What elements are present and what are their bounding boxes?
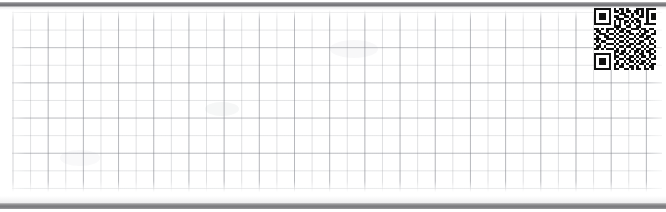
qr-code[interactable] [594,8,656,70]
sheet-right-margin [662,10,666,197]
scan-edge-bar-bottom [0,203,666,209]
scan-edge-shadow-bottom [0,196,666,203]
scanned-document-page [0,0,666,212]
qr-code-matrix [594,8,656,70]
grid-major-lines [0,10,666,197]
sheet-left-margin [0,10,12,197]
graph-paper-sheet [0,10,666,197]
